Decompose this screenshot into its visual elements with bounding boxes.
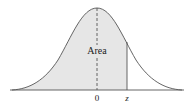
shaded-area xyxy=(12,8,127,90)
area-label: Area xyxy=(87,45,107,56)
axis-label-zero: 0 xyxy=(95,93,100,103)
normal-curve-diagram: Area 0 z xyxy=(0,0,192,105)
axis-label-z: z xyxy=(124,93,129,103)
